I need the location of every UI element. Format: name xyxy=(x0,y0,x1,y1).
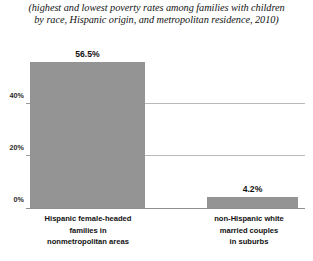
x-category-label-2: non-Hispanic white married couples in su… xyxy=(185,213,313,248)
bar-value-label: 4.2% xyxy=(243,184,263,194)
x-category-label-1: Hispanic female-headed families in nonme… xyxy=(16,213,160,248)
x-axis-line xyxy=(26,208,305,209)
bar-nonhispanic-white-married-suburbs[interactable]: 4.2% xyxy=(207,197,298,208)
y-tick-label-40: 40% xyxy=(10,91,24,100)
x-category-label-2-line-3: in suburbs xyxy=(185,236,313,248)
x-category-label-1-line-3: nonmetropolitan areas xyxy=(16,236,160,248)
bar-hispanic-female-headed-nonmetro[interactable]: 56.5% xyxy=(30,62,145,208)
y-tick-label-20: 20% xyxy=(10,143,24,152)
x-category-label-1-line-2: families in xyxy=(16,225,160,237)
chart-title-line-1: (highest and lowest poverty rates among … xyxy=(0,2,313,14)
x-category-label-1-line-1: Hispanic female-headed xyxy=(16,213,160,225)
x-category-label-2-line-1: non-Hispanic white xyxy=(185,213,313,225)
y-tick-label-0: 0% xyxy=(14,195,24,204)
chart-title-line-2: by race, Hispanic origin, and metropolit… xyxy=(0,14,313,26)
bar-value-label: 56.5% xyxy=(75,49,99,59)
x-category-label-2-line-2: married couples xyxy=(185,225,313,237)
plot-area: 40% 20% 0% 56.5% 4.2% xyxy=(30,58,305,209)
chart-title: (highest and lowest poverty rates among … xyxy=(0,2,313,27)
